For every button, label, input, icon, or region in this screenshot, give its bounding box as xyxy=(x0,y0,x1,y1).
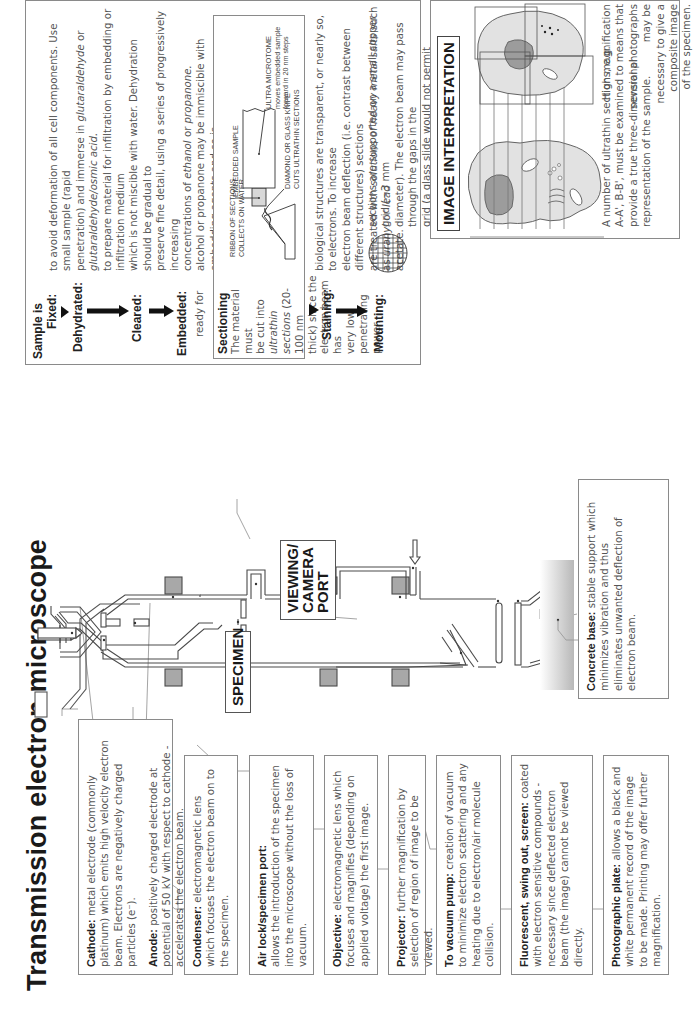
condenser-box: Condenser: electromagnetic lens which fo… xyxy=(184,755,238,975)
cathode-description: Cathode: metal electrode (commonly plati… xyxy=(85,727,139,967)
airlock-box: Air lock/specimen port:allows the introd… xyxy=(249,755,314,975)
copper-grid-icon xyxy=(368,233,408,273)
vacuum-pump-box: To vacuum pump: creation of vacuum to mi… xyxy=(436,755,501,975)
composite-cell-diagram xyxy=(470,4,595,104)
arrow-down-icon xyxy=(61,306,69,318)
objective-box: Objective: electromagnetic lens which fo… xyxy=(324,755,378,975)
microtome-diagram xyxy=(240,104,302,264)
step-staining: Staining: xyxy=(320,289,334,340)
specimen-callout: SPECIMEN xyxy=(225,631,251,713)
arrow-down-icon xyxy=(336,305,368,317)
arrow-down-icon xyxy=(309,304,319,316)
anode-description: Anode: positively charged electrode at p… xyxy=(147,727,187,967)
arrow-down-icon xyxy=(87,305,129,317)
concrete-base xyxy=(540,560,574,690)
microtome-label: ULTRA MICROTOME moves embedded sample fo… xyxy=(265,27,291,109)
step-embedded: Embedded: xyxy=(175,291,189,356)
image-interpretation-heading: IMAGE INTERPRETATION xyxy=(437,36,460,231)
embedded-sub: ready for xyxy=(193,291,206,337)
step-mounting: Mounting: xyxy=(372,294,386,352)
projector-box: Projector: further magnification by sele… xyxy=(388,755,426,975)
step-fixed: Fixed: xyxy=(45,294,59,329)
cathode-anode-box: Cathode: metal electrode (commonly plati… xyxy=(78,719,173,975)
viewing-port-callout: VIEWING/ CAMERA PORT xyxy=(280,540,336,620)
photographic-plate-box: Photographic plate: allows a black and w… xyxy=(603,755,669,975)
sample-is-label: Sample is xyxy=(31,303,45,359)
arrow-down-icon xyxy=(149,305,174,317)
step-dehydrated: Dehydrated: xyxy=(71,282,85,352)
fluorescent-screen-box: Fluorescent, swing out, screen: coated w… xyxy=(511,755,593,975)
step-cleared: Cleared: xyxy=(130,294,144,342)
ii-text-magnification: High magnification means that several ph… xyxy=(600,4,694,124)
concrete-base-box: Concrete base: stable support which mini… xyxy=(578,479,669,699)
